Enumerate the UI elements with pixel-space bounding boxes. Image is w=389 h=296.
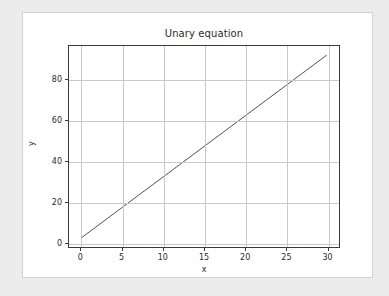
x-axis-label: x [68,265,340,274]
x-tick-label: 5 [119,253,124,262]
x-tick-mark [122,248,123,251]
x-tick-mark [245,248,246,251]
line-series [81,55,326,238]
x-tick-label: 10 [158,253,168,262]
y-tick-label: 40 [38,156,62,165]
gridline-vertical [205,46,206,247]
x-tick-mark [80,248,81,251]
gridline-vertical [246,46,247,247]
x-tick-mark [328,248,329,251]
x-tick-label: 15 [199,253,209,262]
gridline-horizontal [69,203,339,204]
x-tick-label: 30 [323,253,333,262]
gridline-horizontal [69,244,339,245]
x-tick-mark [204,248,205,251]
gridline-vertical [329,46,330,247]
y-tick-mark [65,243,68,244]
y-tick-mark [65,161,68,162]
screenshot-root: Unary equation 051015202530020406080 x y [0,0,389,296]
plot-inner [69,46,339,247]
y-tick-mark [65,202,68,203]
x-tick-mark [286,248,287,251]
matplotlib-figure: Unary equation 051015202530020406080 x y [0,0,389,296]
gridline-vertical [123,46,124,247]
gridline-horizontal [69,121,339,122]
y-tick-label: 80 [38,74,62,83]
gridline-vertical [287,46,288,247]
y-tick-label: 60 [38,115,62,124]
gridline-horizontal [69,162,339,163]
plot-area [68,45,340,248]
line-series-layer [69,46,339,247]
x-tick-label: 20 [240,253,250,262]
y-tick-mark [65,79,68,80]
y-tick-mark [65,120,68,121]
gridline-vertical [164,46,165,247]
x-tick-label: 25 [281,253,291,262]
y-tick-label: 0 [38,238,62,247]
y-tick-label: 20 [38,197,62,206]
gridline-horizontal [69,80,339,81]
y-axis-label: y [27,141,36,146]
chart-title: Unary equation [68,28,340,39]
x-tick-mark [163,248,164,251]
x-tick-label: 0 [78,253,83,262]
gridline-vertical [81,46,82,247]
